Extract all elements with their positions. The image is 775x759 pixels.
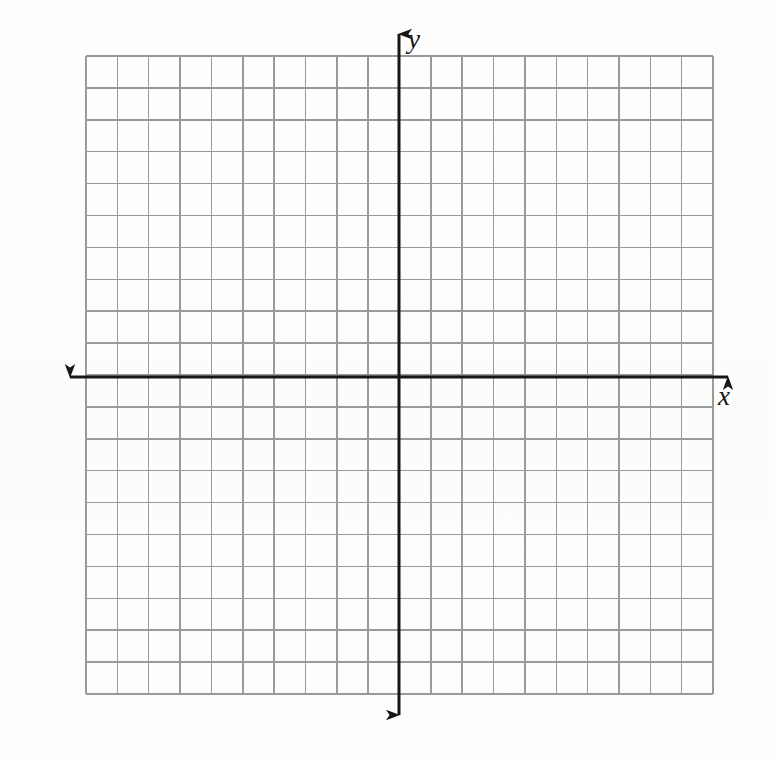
coordinate-plane-canvas: y x <box>0 0 775 759</box>
coordinate-plane-figure: y x <box>0 0 775 759</box>
x-axis-label: x <box>717 381 730 411</box>
y-axis-label: y <box>405 24 420 54</box>
